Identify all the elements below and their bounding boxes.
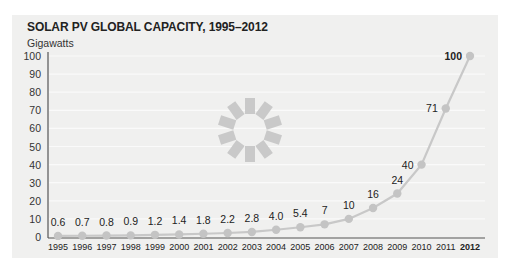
x-tick-label: 2007 [339,242,359,252]
data-label: 7 [322,204,328,216]
y-tick-label: 0 [35,231,41,243]
x-tick-label: 1995 [48,242,68,252]
data-label: 10 [343,199,355,211]
data-point [466,52,474,60]
y-tick-label: 80 [29,86,41,98]
x-tick-label: 2009 [387,242,407,252]
x-tick-label: 2004 [266,242,286,252]
y-tick-label: 70 [29,104,41,116]
y-tick-label: 30 [29,177,41,189]
data-point [248,228,256,236]
data-point [223,229,231,237]
y-tick-label: 100 [23,50,41,62]
data-point [393,189,401,197]
data-label: 2.2 [220,213,235,225]
x-tick-label: 2008 [363,242,383,252]
data-label: 4.0 [269,210,284,222]
x-tick-label: 2011 [436,242,455,252]
data-point [199,230,207,238]
data-point [175,230,183,238]
data-point [369,204,377,212]
y-tick-label: 10 [29,213,41,225]
data-label: 100 [444,50,462,62]
line-chart: 01020304050607080901000.619950.719960.81… [0,0,505,273]
data-label: 40 [402,159,414,171]
data-label: 2.8 [245,212,260,224]
data-point [320,220,328,228]
y-tick-label: 20 [29,195,41,207]
x-tick-label: 2010 [412,242,432,252]
x-tick-label: 1996 [72,242,92,252]
data-label: 16 [367,188,379,200]
x-tick-label: 2002 [218,242,238,252]
x-tick-label: 2003 [242,242,262,252]
sun-icon [218,98,282,162]
x-tick-label: 1999 [145,242,165,252]
data-label: 1.4 [172,214,187,226]
y-tick-label: 50 [29,141,41,153]
x-tick-label: 2000 [169,242,189,252]
data-point [102,231,110,239]
y-tick-label: 90 [29,68,41,80]
x-tick-label: 2005 [290,242,310,252]
data-point [54,232,62,240]
y-tick-label: 60 [29,122,41,134]
x-tick-label: 2006 [315,242,335,252]
data-point [78,232,86,240]
data-point [442,104,450,112]
x-tick-label: 2012 [460,242,480,252]
data-point [151,231,159,239]
x-tick-label: 1998 [121,242,141,252]
data-point [296,223,304,231]
data-label: 1.2 [148,215,163,227]
data-label: 0.9 [123,215,138,227]
data-point [272,226,280,234]
x-tick-label: 1997 [96,242,116,252]
data-label: 24 [391,174,403,186]
x-tick-label: 2001 [193,242,213,252]
data-label: 0.8 [99,216,114,228]
data-label: 0.6 [51,216,66,228]
y-tick-label: 40 [29,159,41,171]
data-label: 5.4 [293,207,308,219]
data-label: 0.7 [75,216,90,228]
data-point [127,231,135,239]
data-point [345,215,353,223]
data-label: 71 [426,102,438,114]
data-point [417,160,425,168]
data-label: 1.8 [196,214,211,226]
